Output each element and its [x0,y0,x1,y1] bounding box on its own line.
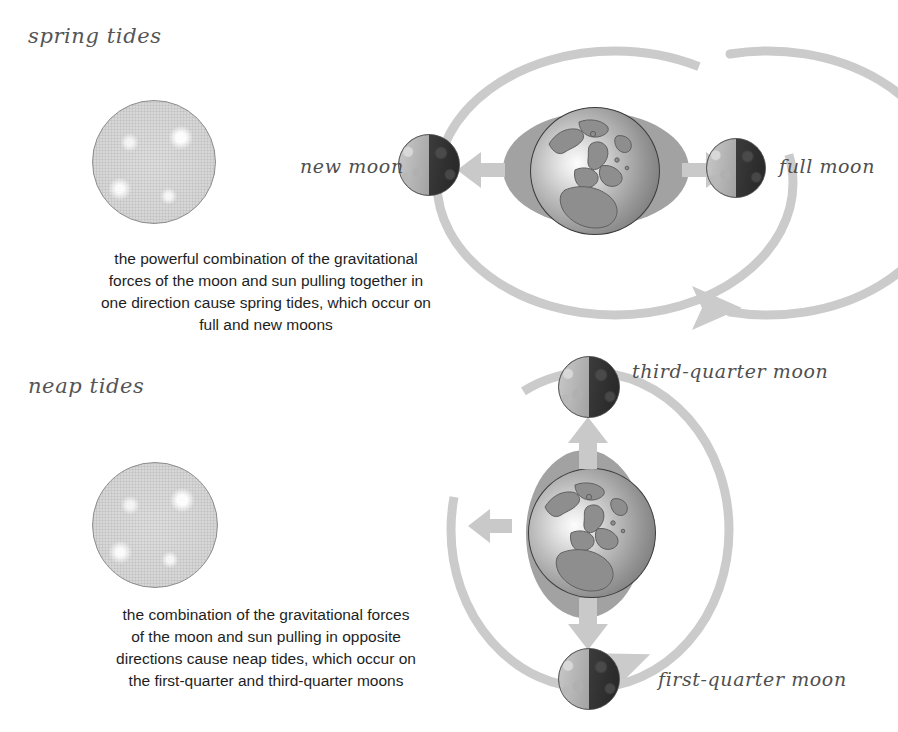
full-moon-dark-half [736,139,765,197]
earth-spring [530,107,660,235]
tides-diagram-page: spring tides [0,0,898,732]
spring-tides-caption: the powerful combination of the gravitat… [85,248,447,336]
force-arrow-left-spring [455,148,507,192]
neap-tides-caption: the combination of the gravitational for… [85,604,447,692]
full-moon [706,138,766,198]
spring-tides-title: spring tides [28,24,162,48]
first-quarter-moon-dark-half [589,649,619,709]
new-moon-label: new moon [300,155,404,177]
full-moon-lit-half [707,139,736,197]
third-quarter-moon-lit-half [559,357,589,417]
sun-spring [92,100,216,224]
sun-neap [92,462,218,588]
full-moon-label: full moon [779,155,875,177]
force-arrow-up-neap [565,415,611,471]
new-moon-dark-half [429,135,459,195]
first-quarter-moon-lit-half [559,649,589,709]
new-moon [398,134,460,196]
earth-neap [528,468,656,598]
neap-tides-title: neap tides [28,374,144,398]
third-quarter-moon-label: third-quarter moon [632,360,828,382]
first-quarter-moon [558,648,620,710]
force-arrow-left-neap [466,505,514,547]
force-arrow-down-neap [565,596,611,652]
third-quarter-moon [558,356,620,418]
third-quarter-moon-dark-half [589,357,619,417]
first-quarter-moon-label: first-quarter moon [658,668,847,690]
